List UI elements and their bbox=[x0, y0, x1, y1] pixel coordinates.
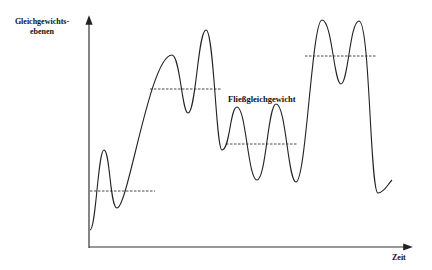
y-axis-label-line1: Gleichgewichts- bbox=[2, 17, 82, 27]
oscillation-curve bbox=[90, 20, 392, 230]
y-axis-label-line2: ebenen bbox=[2, 27, 82, 37]
diagram: Gleichgewichts- ebenen Fließgleichgewich… bbox=[0, 0, 432, 270]
annotation-label: Fließgleichgewicht bbox=[228, 94, 296, 104]
x-axis-label: Zeit bbox=[392, 253, 406, 263]
y-axis-label: Gleichgewichts- ebenen bbox=[2, 17, 82, 37]
diagram-canvas bbox=[0, 0, 432, 270]
